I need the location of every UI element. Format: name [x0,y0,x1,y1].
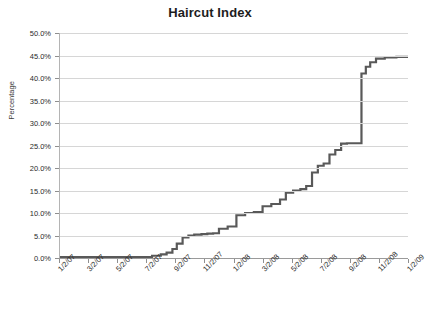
y-tick-mark [55,78,59,79]
plot-area [59,33,408,258]
y-tick-label: 25.0% [30,141,51,150]
gridline-horizontal [59,146,408,147]
y-tick-mark [55,33,59,34]
gridline-horizontal [59,78,408,79]
y-tick-mark [55,146,59,147]
y-tick-label: 30.0% [30,119,51,128]
gridline-horizontal [59,101,408,102]
x-tick-mark [204,259,205,263]
x-tick-mark [263,259,264,263]
chart-title: Haircut Index [0,5,420,20]
y-tick-mark [55,123,59,124]
y-tick-label: 15.0% [30,186,51,195]
x-tick-mark [292,259,293,263]
gridline-horizontal [59,213,408,214]
gridline-horizontal [59,236,408,237]
gridline-horizontal [59,123,408,124]
y-tick-label: 5.0% [34,231,51,240]
gridline-horizontal [59,168,408,169]
y-axis-tick-labels: 0.0%5.0%10.0%15.0%20.0%25.0%30.0%35.0%40… [0,0,56,309]
x-tick-mark [379,259,380,263]
x-tick-mark [321,259,322,263]
gridline-horizontal [59,191,408,192]
x-tick-mark [408,259,409,263]
x-tick-mark [234,259,235,263]
y-axis-line [59,33,60,259]
x-tick-mark [59,259,60,263]
gridline-horizontal [59,33,408,34]
y-tick-label: 45.0% [30,51,51,60]
y-tick-label: 0.0% [34,254,51,263]
y-tick-label: 20.0% [30,164,51,173]
x-tick-mark [175,259,176,263]
y-tick-mark [55,101,59,102]
y-tick-mark [55,236,59,237]
y-tick-mark [55,213,59,214]
series-line [59,57,408,257]
y-tick-label: 35.0% [30,96,51,105]
y-tick-mark [55,191,59,192]
x-tick-mark [88,259,89,263]
x-tick-mark [117,259,118,263]
y-tick-label: 10.0% [30,209,51,218]
x-tick-mark [146,259,147,263]
y-tick-label: 40.0% [30,74,51,83]
y-tick-label: 50.0% [30,29,51,38]
y-tick-mark [55,56,59,57]
gridline-horizontal [59,56,408,57]
y-tick-mark [55,168,59,169]
x-tick-mark [350,259,351,263]
